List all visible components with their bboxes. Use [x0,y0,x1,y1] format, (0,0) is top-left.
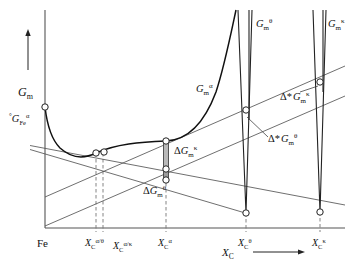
x-tick-label-kappa: XCκ [311,237,326,250]
x-tick-label-alpha-theta: XCα/θ [84,237,104,250]
curve-label-G-theta-sup: θ [269,17,273,25]
curve-label-dstar-G-kappa-prefix: Δ* [280,91,292,102]
curve-G-alpha [45,10,236,157]
marker-alpha-kappa [101,149,107,155]
marker-alpha-theta [93,150,99,156]
x-axis-arrow-icon [253,249,305,254]
curve-label-G-kappa-sup: κ [341,17,345,25]
tangent-metastable-theta-line [45,96,345,226]
curve-label-delta-G-kappa: ΔGmκ [174,144,198,159]
curve-label-dstar-G-theta-prefix: Δ* [268,133,280,144]
curve-label-G-theta: Gmθ [256,17,273,32]
bar-delta-G-kappa [163,141,168,169]
y-axis-label-base: G [18,85,27,99]
x-tick-sub-alpha-theta: C [91,243,95,250]
svg-text:XC: XC [221,246,234,261]
x-tick-sup-alpha-theta: α/θ [95,237,103,244]
composition-droplines-group [96,141,320,232]
marker-kappa-bot [317,209,323,215]
tangent-alpha-theta-line [30,150,247,214]
marker-theta-bot [243,210,249,216]
x-tick-label-theta: XCθ [237,237,252,250]
x-axis-label: XC [221,246,234,261]
curve-label-G-kappa: Gmκ [328,17,345,32]
x-tick-sup-alpha-kappa: α/κ [123,240,132,247]
x-tick-sub-alpha-kappa: C [119,246,123,253]
curve-label-dstar-G-theta-sup: θ [294,132,298,140]
curve-labels-group: Gmα Gmθ Gmκ ΔGmκ ΔGmθ Δ*Gmθ [9,17,345,199]
x-tick-sup-kappa: κ [322,237,326,244]
x-tick-sub-theta: C [244,243,248,250]
x-axis-label-sub: C [229,252,234,261]
y-axis-label: Gm [18,85,34,101]
curve-label-G-alpha-sup: α [209,82,213,90]
diagram-canvas: Gm XC Fe XCα/θ XCα/κ XCα XCθ [0,0,356,268]
marker-kappa-top [317,79,323,85]
marker-dG-theta-lo [163,177,169,183]
curve-label-delta-G-kappa-sup: κ [194,144,198,152]
x-tick-sup-alpha: α [168,237,172,244]
curve-label-dstar-G-kappa-sup: κ [306,90,310,98]
curve-label-G0-Fe-alpha: °GFeα [9,112,30,126]
x-tick-label-alpha-kappa: XCα/κ [112,240,133,253]
curve-label-dstar-G-kappa: Δ*Gmκ [280,90,310,105]
axes-group [45,10,345,228]
curve-label-G0-Fe-alpha-sub: Fe [19,119,26,126]
x-tick-sub-alpha: C [164,243,168,250]
x-tick-sup-theta: θ [248,237,251,244]
x-tick-sub-kappa: C [318,243,322,250]
curve-label-G-alpha: Gmα [196,82,213,97]
x-tick-label-alpha: XCα [157,237,172,250]
x-tick-labels-group: XCα/θ XCα/κ XCα XCθ XCκ [84,237,326,253]
curve-G-kappa [313,10,326,213]
x-origin-label: Fe [37,237,48,249]
y-axis-arrow-icon [25,29,30,70]
marker-G0-Fe-alpha [42,104,48,110]
curve-label-delta-G-theta: ΔGmθ [143,184,167,199]
svg-text:Gm: Gm [18,85,34,101]
curve-label-G0-Fe-alpha-sup: α [26,112,30,119]
marker-theta-top [243,107,249,113]
gibbs-energy-diagram: Gm XC Fe XCα/θ XCα/κ XCα XCθ [0,0,356,268]
marker-dG-kappa-lo [163,166,169,172]
tangent-metastable-kappa-line [45,66,345,197]
marker-alpha-comp [163,138,169,144]
curve-label-dstar-G-theta: Δ*Gmθ [268,132,298,147]
driving-force-bars-group [163,141,168,180]
y-axis-label-sub: m [27,92,34,101]
